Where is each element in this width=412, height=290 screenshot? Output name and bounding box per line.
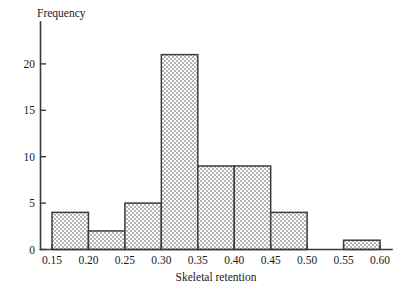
x-tick-label: 0.40 [224, 254, 244, 266]
x-tick-label: 0.60 [370, 254, 390, 266]
y-tick-label: 5 [29, 197, 35, 209]
y-tick-label: 15 [24, 104, 36, 116]
y-tick-label: 10 [24, 151, 36, 163]
x-axis-title: Skeletal retention [176, 271, 257, 283]
histogram-bar [198, 166, 234, 250]
y-tick-label: 20 [24, 58, 36, 70]
x-tick-label: 0.50 [297, 254, 317, 266]
x-tick-label: 0.25 [115, 254, 135, 266]
histogram-bar [125, 203, 161, 249]
histogram-bar [161, 55, 197, 250]
histogram-bar [52, 212, 88, 249]
x-tick-label: 0.15 [42, 254, 62, 266]
x-tick-label: 0.35 [188, 254, 208, 266]
x-tick-label: 0.20 [78, 254, 98, 266]
histogram-bar [271, 212, 307, 249]
x-tick-label: 0.30 [151, 254, 171, 266]
x-tick-label: 0.55 [334, 254, 354, 266]
y-tick-label: 0 [29, 244, 35, 256]
histogram-bar [234, 166, 270, 250]
histogram-svg: 05101520 0.150.200.250.300.350.400.450.5… [0, 0, 412, 290]
histogram-bar [344, 240, 380, 249]
x-tick-label: 0.45 [261, 254, 281, 266]
histogram-bar [88, 231, 124, 250]
histogram-figure: 05101520 0.150.200.250.300.350.400.450.5… [0, 0, 412, 290]
y-axis-title: Frequency [37, 7, 86, 20]
